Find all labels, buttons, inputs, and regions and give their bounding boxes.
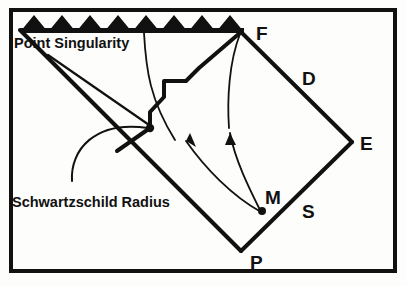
vertex-label-D: D bbox=[302, 68, 316, 89]
penrose-diagram-svg: F D E S M P Point Singularity Schwartzsc… bbox=[0, 0, 407, 286]
point-M-marker bbox=[258, 207, 266, 215]
point-singularity-leader bbox=[48, 55, 152, 127]
caption-point-singularity: Point Singularity bbox=[14, 35, 129, 51]
vertex-label-S: S bbox=[302, 201, 315, 222]
edge-E-P bbox=[241, 142, 352, 251]
point-singularity-sawtooth bbox=[20, 15, 244, 33]
caption-schwartzschild-radius: Schwartzschild Radius bbox=[12, 194, 170, 210]
worldline-infall-right-upper bbox=[228, 34, 240, 128]
schwartzschild-radius-leader bbox=[72, 127, 148, 181]
vertex-label-P: P bbox=[250, 252, 263, 273]
worldline-infall-left bbox=[186, 133, 261, 212]
vertex-label-F: F bbox=[256, 23, 268, 44]
exterior-region-boundary bbox=[241, 32, 352, 251]
vertex-label-M: M bbox=[265, 187, 281, 208]
edge-F-E bbox=[241, 32, 352, 142]
vertex-label-E: E bbox=[360, 133, 373, 154]
figure-canvas: F D E S M P Point Singularity Schwartzsc… bbox=[0, 0, 407, 286]
collapsing-star-surface bbox=[117, 32, 241, 151]
